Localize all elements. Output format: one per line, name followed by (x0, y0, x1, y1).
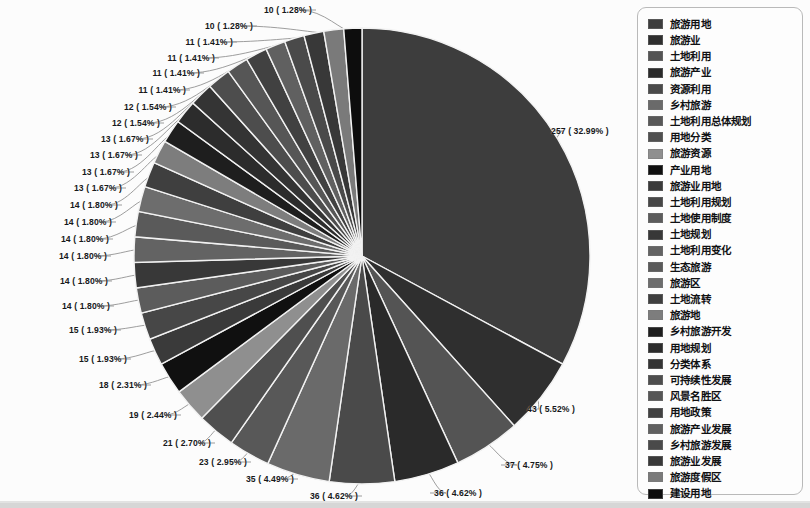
legend-item[interactable]: 土地使用制度 (648, 210, 802, 226)
pie-data-label: 11 ( 1.41% ) (185, 38, 233, 47)
legend-item[interactable]: 乡村旅游 (648, 97, 802, 113)
pie-data-label: 11 ( 1.41% ) (152, 69, 200, 78)
legend-swatch (648, 19, 663, 29)
legend-label: 旅游区 (670, 278, 701, 289)
legend-swatch (648, 116, 663, 126)
legend-item[interactable]: 风景名胜区 (648, 388, 802, 404)
legend-item[interactable]: 旅游业发展 (648, 453, 802, 469)
legend-item[interactable]: 土地利用 (648, 48, 802, 64)
pie-slices (134, 28, 590, 484)
legend-item[interactable]: 生态旅游 (648, 259, 802, 275)
legend-label: 用地规划 (670, 343, 711, 354)
legend-label: 旅游产业发展 (670, 424, 731, 435)
legend-label: 资源利用 (670, 84, 711, 95)
pie-data-label: 14 ( 1.80% ) (60, 277, 108, 286)
legend-label: 乡村旅游开发 (670, 326, 731, 337)
pie-data-label: 36 ( 4.62% ) (434, 489, 482, 498)
pie-data-label: 14 ( 1.80% ) (70, 201, 118, 210)
pie-data-label: 14 ( 1.80% ) (62, 302, 110, 311)
legend-item[interactable]: 旅游区 (648, 275, 802, 291)
legend-swatch (648, 246, 663, 256)
legend-swatch (648, 408, 663, 418)
legend-item[interactable]: 用地政策 (648, 405, 802, 421)
legend-item[interactable]: 旅游资源 (648, 146, 802, 162)
pie-data-label: 13 ( 1.67% ) (101, 135, 149, 144)
legend-label: 旅游度假区 (670, 472, 721, 483)
legend-item[interactable]: 可持续性发展 (648, 372, 802, 388)
legend-swatch (648, 68, 663, 78)
pie-data-label: 15 ( 1.93% ) (79, 355, 127, 364)
legend-item[interactable]: 旅游业 (648, 32, 802, 48)
legend-swatch (648, 489, 663, 499)
legend-label: 土地使用制度 (670, 213, 731, 224)
legend-label: 旅游业发展 (670, 456, 721, 467)
legend-swatch (648, 327, 663, 337)
legend-swatch (648, 294, 663, 304)
pie-data-label: 11 ( 1.41% ) (167, 54, 215, 63)
legend-item[interactable]: 旅游用地 (648, 16, 802, 32)
legend-label: 可持续性发展 (670, 375, 731, 386)
legend-label: 旅游地 (670, 310, 701, 321)
legend-swatch (648, 375, 663, 385)
pie-data-label: 19 ( 2.44% ) (129, 411, 177, 420)
pie-data-label: 13 ( 1.67% ) (90, 151, 138, 160)
legend-swatch (648, 165, 663, 175)
legend-item[interactable]: 土地规划 (648, 226, 802, 242)
legend-swatch (648, 230, 663, 240)
pie-data-label: 21 ( 2.70% ) (163, 439, 211, 448)
legend-swatch (648, 262, 663, 272)
pie-data-label: 13 ( 1.67% ) (82, 168, 130, 177)
legend-label: 用地政策 (670, 407, 711, 418)
pie-data-label: 11 ( 1.41% ) (138, 86, 186, 95)
legend-swatch (648, 35, 663, 45)
legend-label: 旅游资源 (670, 148, 711, 159)
legend-swatch (648, 424, 663, 434)
legend-item[interactable]: 用地规划 (648, 340, 802, 356)
legend-item[interactable]: 土地流转 (648, 291, 802, 307)
pie-chart: 10 ( 1.28% )10 ( 1.28% )11 ( 1.41% )11 (… (0, 0, 640, 508)
scan-edge-dark (0, 503, 810, 508)
legend-label: 土地利用 (670, 51, 711, 62)
legend-item[interactable]: 产业用地 (648, 162, 802, 178)
pie-data-label: 23 ( 2.95% ) (199, 458, 247, 467)
legend-item[interactable]: 土地利用变化 (648, 243, 802, 259)
legend-swatch (648, 149, 663, 159)
legend-label: 旅游业 (670, 35, 701, 46)
legend-swatch (648, 84, 663, 94)
legend-label: 土地利用总体规划 (670, 116, 752, 127)
pie-data-label: 10 ( 1.28% ) (264, 6, 312, 15)
legend-item[interactable]: 乡村旅游发展 (648, 437, 802, 453)
legend-item[interactable]: 资源利用 (648, 81, 802, 97)
legend-item[interactable]: 乡村旅游开发 (648, 324, 802, 340)
legend-item[interactable]: 旅游地 (648, 307, 802, 323)
legend-item[interactable]: 旅游产业 (648, 65, 802, 81)
legend-label: 建设用地 (670, 488, 711, 499)
legend-swatch (648, 456, 663, 466)
legend-label: 土地规划 (670, 229, 711, 240)
legend-item[interactable]: 旅游产业发展 (648, 421, 802, 437)
legend-label: 乡村旅游 (670, 100, 711, 111)
pie-data-label: 14 ( 1.80% ) (61, 235, 109, 244)
legend: 旅游用地旅游业土地利用旅游产业资源利用乡村旅游土地利用总体规划用地分类旅游资源产… (637, 7, 803, 495)
legend-item[interactable]: 土地利用规划 (648, 194, 802, 210)
legend-swatch (648, 197, 663, 207)
pie-data-label: 13 ( 1.67% ) (74, 184, 122, 193)
pie-data-label: 257 ( 32.99% ) (551, 127, 609, 136)
legend-swatch (648, 100, 663, 110)
legend-swatch (648, 278, 663, 288)
legend-item[interactable]: 建设用地 (648, 485, 802, 501)
legend-item[interactable]: 用地分类 (648, 129, 802, 145)
legend-item[interactable]: 旅游度假区 (648, 469, 802, 485)
legend-swatch (648, 213, 663, 223)
legend-swatch (648, 391, 663, 401)
legend-item[interactable]: 分类体系 (648, 356, 802, 372)
legend-item[interactable]: 旅游业用地 (648, 178, 802, 194)
legend-swatch (648, 181, 663, 191)
legend-item[interactable]: 土地利用总体规划 (648, 113, 802, 129)
legend-swatch (648, 440, 663, 450)
legend-swatch (648, 310, 663, 320)
legend-label: 分类体系 (670, 359, 711, 370)
legend-label: 乡村旅游发展 (670, 440, 731, 451)
pie-data-label: 18 ( 2.31% ) (99, 381, 147, 390)
legend-label: 产业用地 (670, 165, 711, 176)
